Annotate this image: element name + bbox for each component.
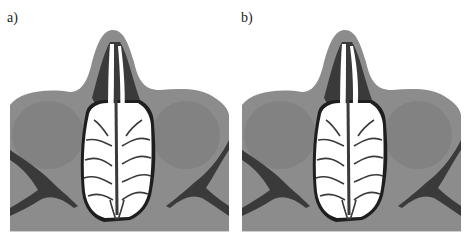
right-orbit [152,101,220,169]
septum [348,100,349,215]
nasal-cavity-scan-b [234,0,468,240]
figure-panel-a: a) [0,0,234,240]
septum [116,100,117,215]
figure-panel-b: b) [234,0,468,240]
right-orbit [384,101,452,169]
nasal-cavity-scan-a [0,0,234,240]
